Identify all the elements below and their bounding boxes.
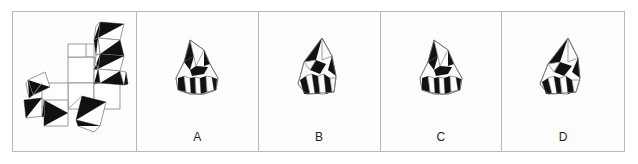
solid-a-body <box>176 40 218 94</box>
unfolded-net-figure <box>13 12 136 151</box>
net-tile-lower-right <box>76 96 106 132</box>
solid-b-svg <box>282 34 356 108</box>
prompt-panel[interactable] <box>13 12 137 151</box>
option-label-b: B <box>259 131 380 143</box>
solid-b-body <box>298 38 336 94</box>
question-frame: A <box>12 11 625 152</box>
option-figure-a <box>137 12 258 130</box>
solid-c-body <box>420 40 462 94</box>
option-label-c: C <box>381 131 502 143</box>
option-figure-b <box>259 12 380 130</box>
net-tile-fan-upper-right <box>94 22 128 85</box>
solid-d-svg <box>526 34 600 108</box>
solid-c-svg <box>404 34 478 108</box>
option-figure-c <box>381 12 502 130</box>
option-panel-d[interactable]: D <box>502 12 624 151</box>
solid-a-svg <box>160 34 234 108</box>
option-label-d: D <box>502 131 624 143</box>
option-panel-a[interactable]: A <box>137 12 259 151</box>
option-figure-d <box>502 12 624 130</box>
option-panel-b[interactable]: B <box>259 12 381 151</box>
option-panel-c[interactable]: C <box>381 12 503 151</box>
net-svg <box>14 14 134 150</box>
option-label-a: A <box>137 131 258 143</box>
solid-d-body <box>540 38 580 94</box>
spatial-reasoning-question: A <box>0 0 638 164</box>
net-tiles-lower-left <box>24 98 68 126</box>
